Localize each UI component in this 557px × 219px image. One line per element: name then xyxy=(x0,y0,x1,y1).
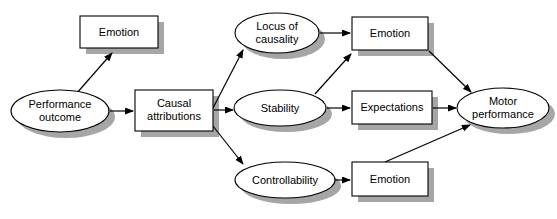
locus-of-causality-label-line2: causality xyxy=(256,33,299,45)
edge-causal-to-controllability xyxy=(213,126,243,164)
locus-of-causality-label-line1: Locus of xyxy=(256,20,299,32)
node-emotion-bottom-right: Emotion xyxy=(352,162,428,196)
node-emotion-top-right: Emotion xyxy=(352,17,428,50)
emotion-top-right-label: Emotion xyxy=(370,27,410,39)
edge-performance-to-emotion-top xyxy=(76,53,112,94)
node-expectations: Expectations xyxy=(352,91,432,124)
diagram-canvas: PerformanceoutcomeEmotionCausalattributi… xyxy=(0,0,557,219)
node-causal-attributions: Causalattributions xyxy=(135,90,213,131)
node-stability: Stability xyxy=(234,90,326,126)
edge-emotion-top-right-to-motor xyxy=(429,51,471,92)
node-emotion-top-left: Emotion xyxy=(80,16,158,48)
edge-emotion-bottom-to-motor xyxy=(385,125,470,162)
causal-attributions-label-line1: Causal xyxy=(157,97,191,109)
edge-causal-to-locus xyxy=(213,50,243,108)
performance-outcome-label-line2: outcome xyxy=(39,111,81,123)
motor-performance-label-line1: Motor xyxy=(489,95,517,107)
node-motor-performance: Motorperformance xyxy=(457,88,549,128)
controllability-label: Controllability xyxy=(252,174,319,186)
motor-performance-label-line2: performance xyxy=(472,108,534,120)
emotion-top-left-label: Emotion xyxy=(99,26,139,38)
expectations-label: Expectations xyxy=(361,101,424,113)
node-controllability: Controllability xyxy=(235,162,335,198)
performance-outcome-label-line1: Performance xyxy=(29,98,92,110)
emotion-bottom-right-label: Emotion xyxy=(370,173,410,185)
causal-attributions-label-line2: attributions xyxy=(147,110,201,122)
node-performance-outcome: Performanceoutcome xyxy=(11,90,109,132)
node-layer: PerformanceoutcomeEmotionCausalattributi… xyxy=(11,13,549,198)
node-locus-of-causality: Locus ofcausality xyxy=(235,13,319,53)
stability-label: Stability xyxy=(261,102,300,114)
attribution-model-diagram: PerformanceoutcomeEmotionCausalattributi… xyxy=(0,0,557,219)
edge-stability-to-emotion-top-right xyxy=(315,54,351,94)
